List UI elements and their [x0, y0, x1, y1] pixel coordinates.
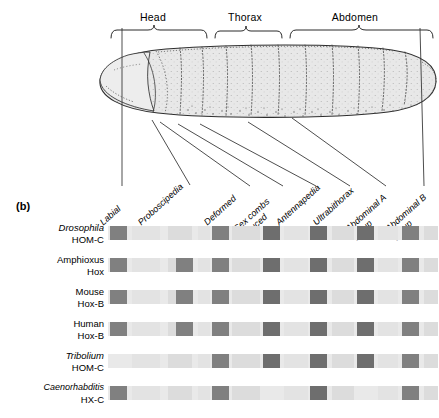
gene-spacer-segment — [132, 386, 160, 400]
gene-spacer-segment — [424, 322, 438, 336]
cluster-name-mouse: Hox-B — [0, 298, 104, 310]
gene-box-amphioxus-6 — [357, 258, 374, 272]
gene-box-human-3 — [212, 322, 229, 336]
cluster-name-amphioxus: Hox — [0, 266, 104, 278]
gene-spacer-segment — [232, 258, 260, 272]
gene-spacer-segment — [424, 290, 438, 304]
gene-spacer-segment — [232, 226, 260, 240]
gene-spacer-segment — [198, 258, 210, 272]
row-label-tribolium: Tribolium HOM-C — [0, 350, 104, 373]
gene-box-tribolium-1 — [212, 354, 229, 368]
species-name-mouse: Mouse — [0, 286, 104, 298]
gene-spacer-segment — [198, 386, 210, 400]
gene-box-human-7 — [402, 322, 419, 336]
gene-spacer-segment — [378, 258, 398, 272]
gene-box-human-5 — [310, 322, 327, 336]
cluster-row-drosophila: Drosophila HOM-C — [0, 222, 439, 252]
gene-box-human-4 — [263, 322, 280, 336]
gene-spacer-segment — [232, 354, 260, 368]
gene-box-mouse-7 — [402, 290, 419, 304]
gene-spacer-segment — [284, 386, 308, 400]
gene-spacer-segment — [284, 354, 308, 368]
gene-spacer-segment — [378, 226, 398, 240]
gene-box-amphioxus-4 — [263, 258, 280, 272]
figure-panel-b: Head Thorax Abdomen — [0, 0, 439, 418]
gene-spacer-segment — [424, 386, 438, 400]
gene-spacer-segment — [424, 226, 438, 240]
gene-spacer-segment — [232, 322, 260, 336]
gene-box-tribolium-5 — [402, 354, 419, 368]
gene-box-mouse-3 — [212, 290, 229, 304]
cluster-row-tribolium: Tribolium HOM-C — [0, 350, 439, 380]
gene-cluster-bar-caenorhabditis — [108, 386, 438, 400]
gene-box-human-2 — [176, 322, 193, 336]
gene-box-caenorhabditis-4 — [402, 386, 419, 400]
gene-box-drosophila-5 — [357, 226, 374, 240]
gene-box-tribolium-4 — [357, 354, 374, 368]
cluster-name-drosophila: HOM-C — [0, 234, 104, 246]
gene-leader-lines — [0, 0, 439, 196]
gene-cluster-bar-tribolium — [108, 354, 438, 368]
gene-box-amphioxus-3 — [212, 258, 229, 272]
gene-spacer-segment — [378, 354, 398, 368]
gene-spacer-segment — [132, 226, 160, 240]
species-name-caenorhabditis: Caenorhabditis — [0, 382, 104, 394]
gene-spacer-segment — [332, 226, 354, 240]
gene-spacer-segment — [284, 226, 308, 240]
gene-box-human-1 — [110, 322, 127, 336]
species-name-amphioxus: Amphioxus — [0, 254, 104, 266]
gene-spacer-segment — [132, 354, 160, 368]
gene-spacer-segment — [378, 290, 398, 304]
cluster-row-amphioxus: Amphioxus Hox — [0, 254, 439, 284]
species-name-human: Human — [0, 318, 104, 330]
gene-cluster-bar-mouse — [108, 290, 438, 304]
gene-spacer-segment — [168, 354, 192, 368]
gene-spacer-segment — [332, 354, 354, 368]
gene-spacer-segment — [198, 322, 210, 336]
gene-spacer-segment — [332, 386, 354, 400]
gene-spacer-segment — [132, 258, 160, 272]
row-label-mouse: Mouse Hox-B — [0, 286, 104, 309]
gene-box-mouse-1 — [110, 290, 127, 304]
gene-cluster-bar-human — [108, 322, 438, 336]
gene-box-mouse-2 — [176, 290, 193, 304]
gene-box-mouse-6 — [357, 290, 374, 304]
gene-box-drosophila-3 — [263, 226, 280, 240]
panel-tag-b: (b) — [16, 200, 30, 212]
gene-box-caenorhabditis-1 — [110, 386, 127, 400]
gene-spacer-segment — [132, 322, 160, 336]
gene-box-tribolium-2 — [263, 354, 280, 368]
gene-cluster-bar-drosophila — [108, 226, 438, 240]
gene-box-drosophila-4 — [310, 226, 327, 240]
gene-spacer-segment — [198, 354, 210, 368]
gene-box-mouse-4 — [263, 290, 280, 304]
cluster-name-tribolium: HOM-C — [0, 362, 104, 374]
gene-spacer-segment — [332, 258, 354, 272]
row-label-human: Human Hox-B — [0, 318, 104, 341]
gene-spacer-segment — [332, 322, 354, 336]
gene-cluster-bar-amphioxus — [108, 258, 438, 272]
gene-spacer-segment — [284, 258, 308, 272]
cluster-name-caenorhabditis: HX-C — [0, 394, 104, 406]
gene-spacer-segment — [168, 226, 192, 240]
gene-spacer-segment — [424, 354, 438, 368]
gene-spacer-segment — [232, 386, 260, 400]
gene-spacer-segment — [132, 290, 160, 304]
cluster-name-human: Hox-B — [0, 330, 104, 342]
gene-box-human-6 — [357, 322, 374, 336]
gene-box-tribolium-3 — [310, 354, 327, 368]
row-label-drosophila: Drosophila HOM-C — [0, 222, 104, 245]
gene-box-amphioxus-1 — [110, 258, 127, 272]
cluster-row-mouse: Mouse Hox-B — [0, 286, 439, 316]
gene-box-mouse-5 — [310, 290, 327, 304]
gene-box-drosophila-1 — [110, 226, 127, 240]
cluster-row-caenorhabditis: Caenorhabditis HX-C — [0, 382, 439, 412]
gene-spacer-segment — [232, 290, 260, 304]
cluster-row-human: Human Hox-B — [0, 318, 439, 348]
hox-cluster-rows: Drosophila HOM-C Amphioxus Hox Mouse Hox… — [0, 222, 439, 418]
gene-spacer-segment — [198, 226, 210, 240]
gene-box-amphioxus-5 — [310, 258, 327, 272]
gene-box-drosophila-2 — [212, 226, 229, 240]
gene-spacer-segment — [284, 322, 308, 336]
species-name-tribolium: Tribolium — [0, 350, 104, 362]
